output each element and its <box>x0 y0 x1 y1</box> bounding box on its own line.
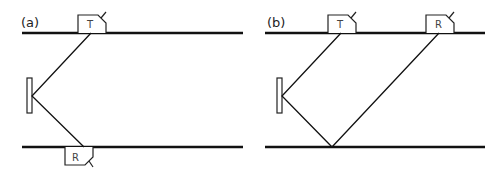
beam-path <box>32 33 91 147</box>
transmitter-probe: T <box>328 12 356 33</box>
transmitter-label: T <box>86 19 94 30</box>
transmitter-probe: T <box>78 12 106 33</box>
beam-path <box>282 33 439 147</box>
receiver-probe: R <box>426 12 454 33</box>
receiver-label: R <box>72 152 79 163</box>
reflector-defect <box>277 78 282 113</box>
transmitter-label: T <box>336 19 344 30</box>
receiver-probe: R <box>65 147 93 167</box>
panel-a-label: (a) <box>21 15 39 30</box>
panel-b-label: (b) <box>267 15 285 30</box>
panel-a: (a) T R <box>21 12 243 167</box>
reflector-defect <box>27 78 32 113</box>
diagram-canvas: (a) T R (b) T <box>0 0 502 179</box>
receiver-label: R <box>435 19 442 30</box>
panel-b: (b) T R <box>265 12 485 147</box>
